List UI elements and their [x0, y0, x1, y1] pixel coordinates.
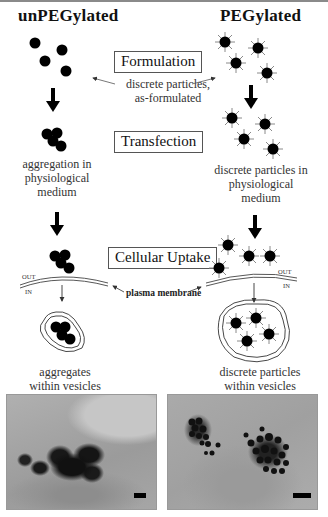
aggregate-transfection — [42, 128, 67, 152]
vesicle-particles — [168, 395, 317, 509]
vesicle-right — [218, 300, 289, 362]
aggregate-uptake — [50, 250, 75, 274]
pegylated-particles — [215, 32, 277, 83]
plasma-membrane-left — [20, 277, 108, 288]
unpegylated-particles — [30, 38, 72, 77]
micrograph-unpegylated — [6, 394, 157, 510]
plasma-membrane-right — [206, 274, 297, 286]
vesicle-left — [40, 312, 84, 352]
down-arrows — [46, 85, 262, 239]
scale-bar — [134, 493, 146, 498]
scale-bar — [293, 493, 311, 498]
micrograph-pegylated — [167, 394, 318, 510]
schematic-graphics — [0, 0, 328, 385]
